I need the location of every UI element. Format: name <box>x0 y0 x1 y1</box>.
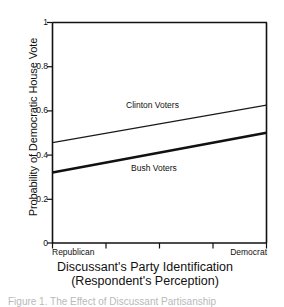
x-tick-label-democrat: Democrat <box>230 248 267 257</box>
bottom-caption-cutoff: Figure 1. The Effect of Discussant Parti… <box>8 296 278 307</box>
x-tick-label-republican: Republican <box>52 248 95 257</box>
y-axis-title: Probability of Democratic House Vote <box>27 22 39 232</box>
y-tick-label-0: 0 <box>26 239 48 248</box>
series-label-clinton: Clinton Voters <box>126 101 179 110</box>
x-axis-title-line2: (Respondent's Perception) <box>30 274 260 288</box>
x-axis-title-line1: Discussant's Party Identification <box>57 260 233 274</box>
axis-frame <box>53 23 268 244</box>
chart-figure: 1 0.8 0.6 0.4 0.2 0 Probability of Democ… <box>0 0 284 307</box>
series-label-bush: Bush Voters <box>131 164 177 173</box>
series-line-clinton <box>53 105 267 142</box>
x-axis-title: Discussant's Party Identification (Respo… <box>30 260 260 288</box>
